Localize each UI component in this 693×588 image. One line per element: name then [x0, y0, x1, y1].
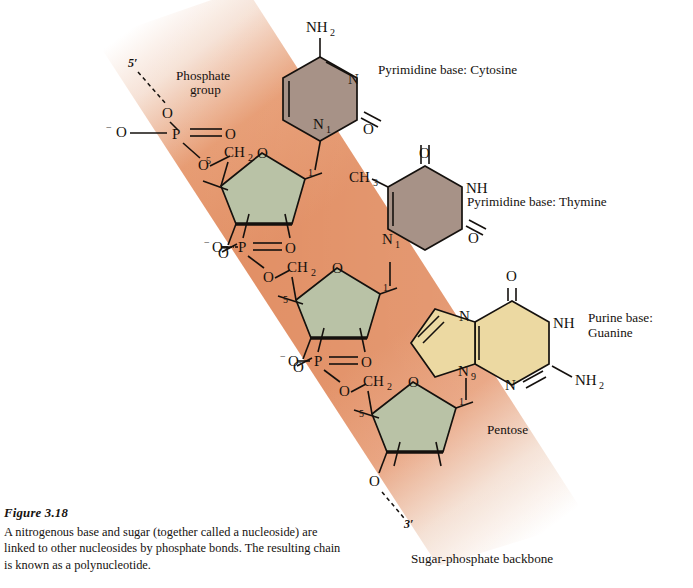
figure-number: Figure 3.18: [4, 505, 344, 522]
atom-nh2-guanine: NH: [575, 372, 597, 388]
atom-ch2-sugar2: CH: [287, 259, 308, 275]
phosphate-group-label-line2: group: [190, 82, 221, 97]
base-thymine: CH 3 O NH O N 1 Pyrimidine base: Thymine: [349, 145, 607, 250]
carbon-1-label-sugar3: 1: [459, 396, 464, 407]
atom-ch2-sugar1: CH: [224, 144, 245, 160]
figure-caption: Figure 3.18 A nitrogenous base and sugar…: [4, 505, 344, 573]
atom-n9-sub-guanine: 9: [471, 371, 476, 382]
atom-o-ring-sugar1: O: [257, 145, 268, 161]
atom-p-top: P: [172, 126, 180, 142]
atom-o-mid-bridge: O: [263, 269, 274, 285]
atom-o-mid-double: O: [285, 240, 296, 256]
three-prime-label: 3′: [403, 517, 413, 531]
atom-ch2-sugar3: CH: [363, 373, 384, 389]
atom-o2-thymine: O: [468, 230, 479, 246]
atom-o6-guanine: O: [506, 268, 517, 284]
charge-minus-top: −: [106, 122, 112, 133]
atom-n1-sub-thymine: 1: [395, 239, 400, 250]
atom-o-ring-sugar3: O: [408, 374, 419, 390]
atom-o-sugar3-3prime: O: [369, 473, 380, 489]
atom-o-top-double: O: [225, 126, 236, 142]
label-sugar-phosphate-backbone: Sugar-phosphate backbone: [411, 551, 553, 566]
five-prime-label: 5′: [128, 56, 137, 70]
label-thymine: Pyrimidine base: Thymine: [467, 194, 607, 209]
phosphate-group-label-line1: Phosphate: [176, 68, 230, 83]
atom-p-low: P: [314, 353, 322, 369]
atom-o-ring-sugar2: O: [332, 260, 343, 276]
polynucleotide-diagram: 5′ O O − P O O Phosphate group CH 2 5 O: [0, 0, 693, 588]
atom-n1-sub-cytosine: 1: [326, 124, 331, 135]
atom-nh2-cytosine: NH: [306, 19, 328, 35]
atom-ch3-thymine: CH: [349, 169, 370, 185]
atom-n7-guanine: N: [459, 308, 470, 324]
figure-caption-text: A nitrogenous base and sugar (together c…: [4, 524, 344, 573]
atom-o-low-bridge: O: [339, 383, 350, 399]
charge-minus-mid: −: [204, 237, 210, 248]
atom-o-low-double: O: [361, 354, 372, 370]
atom-n3-cytosine: N: [348, 71, 359, 87]
label-guanine-line2: Guanine: [588, 325, 633, 340]
figure-polynucleotide: 5′ O O − P O O Phosphate group CH 2 5 O: [0, 0, 693, 588]
label-guanine-line1: Purine base:: [588, 310, 653, 325]
atom-o2-cytosine: O: [363, 121, 374, 137]
atom-n1h-guanine: NH: [553, 315, 575, 331]
charge-minus-low: −: [280, 351, 286, 362]
carbon-5-label-sugar1: 5: [206, 155, 211, 166]
atom-ch2-sub-sugar2: 2: [311, 267, 316, 278]
atom-p-mid: P: [238, 239, 246, 255]
atom-o-top-ester: O: [162, 105, 173, 121]
atom-nh2-sub-cytosine: 2: [330, 27, 335, 38]
atom-ch2-sub-sugar3: 2: [387, 381, 392, 392]
atom-n9-guanine: N: [458, 363, 469, 379]
label-pentose: Pentose: [487, 422, 528, 437]
carbon-1-label-sugar2: 1: [383, 282, 388, 293]
carbon-1-label-sugar1: 1: [308, 167, 313, 178]
base-cytosine: NH 2 N O N 1 Pyrimidine base: Cytosine: [283, 19, 517, 141]
atom-n3-guanine: N: [505, 377, 516, 393]
label-cytosine: Pyrimidine base: Cytosine: [378, 62, 517, 77]
atom-n1-thymine: N: [382, 231, 393, 247]
atom-nh2-sub-guanine: 2: [599, 380, 604, 391]
atom-n1-cytosine: N: [313, 116, 324, 132]
atom-o-top-minus: O: [116, 124, 127, 140]
